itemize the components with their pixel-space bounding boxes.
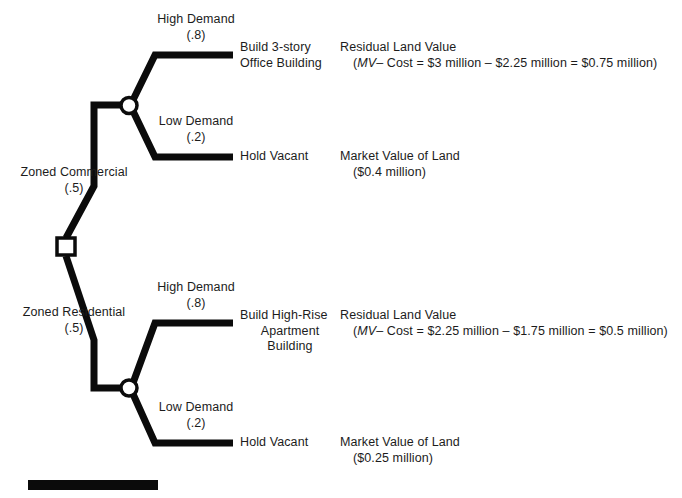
zone-probability: (.5) [14,181,134,197]
outcome-line-3: Building [240,339,340,355]
zone-label-commercial: Zoned Commercial (.5) [14,165,134,196]
zone-probability: (.5) [14,321,134,337]
payoff-expression: – Cost = $3 million – $2.25 million = $0… [376,56,657,70]
demand-label: Low Demand [159,114,234,128]
bottom-rule [28,480,158,490]
branch-label-commercial-high: High Demand (.8) [144,12,248,43]
payoff-formula: (MV– Cost = $2.25 million – $1.75 millio… [340,324,680,340]
payoff-formula: (MV– Cost = $3 million – $2.25 million =… [340,56,680,72]
payoff-commercial-high: Residual Land Value (MV– Cost = $3 milli… [340,40,680,71]
outcome-residential-low: Hold Vacant [240,435,340,451]
outcome-line-2: Apartment [240,324,340,340]
outcome-line-1: Hold Vacant [240,435,340,451]
payoff-commercial-low: Market Value of Land ($0.4 million) [340,149,680,180]
payoff-formula: ($0.4 million) [340,165,680,181]
demand-label: High Demand [157,280,235,294]
payoff-italic-term: MV [357,324,376,338]
branch-label-residential-low: Low Demand (.2) [144,400,248,431]
outcome-commercial-low: Hold Vacant [240,149,340,165]
probability-label: (.2) [144,130,248,146]
chance-node-residential-circle [121,380,137,396]
payoff-title: Market Value of Land [340,435,680,451]
outcome-line-2: Office Building [240,56,340,72]
outcome-line-1: Build 3-story [240,40,340,56]
outcome-line-1: Hold Vacant [240,149,340,165]
zone-label-residential: Zoned Residential (.5) [14,305,134,336]
tree-branches [0,0,682,498]
branch-label-commercial-low: Low Demand (.2) [144,114,248,145]
edge-commercial-high-demand [133,55,233,100]
decision-tree-diagram: High Demand (.8) Low Demand (.2) High De… [0,0,682,498]
branch-label-residential-high: High Demand (.8) [144,280,248,311]
payoff-expression: – Cost = $2.25 million – $1.75 million =… [376,324,668,338]
zone-name: Zoned Residential [23,305,125,319]
edge-residential-high-demand [133,323,233,383]
zone-name: Zoned Commercial [20,165,127,179]
payoff-formula: ($0.25 million) [340,451,680,467]
payoff-residential-high: Residual Land Value (MV– Cost = $2.25 mi… [340,308,680,339]
chance-node-commercial-circle [121,98,137,114]
payoff-italic-term: MV [357,56,376,70]
payoff-title: Residual Land Value [340,40,680,56]
outcome-commercial-high: Build 3-story Office Building [240,40,340,71]
probability-label: (.8) [144,28,248,44]
decision-node-square [57,238,75,255]
probability-label: (.8) [144,296,248,312]
payoff-title: Market Value of Land [340,149,680,165]
payoff-residential-low: Market Value of Land ($0.25 million) [340,435,680,466]
payoff-title: Residual Land Value [340,308,680,324]
outcome-residential-high: Build High-Rise Apartment Building [240,308,340,355]
probability-label: (.2) [144,416,248,432]
outcome-line-1: Build High-Rise [240,308,340,324]
demand-label: High Demand [157,12,235,26]
demand-label: Low Demand [159,400,234,414]
